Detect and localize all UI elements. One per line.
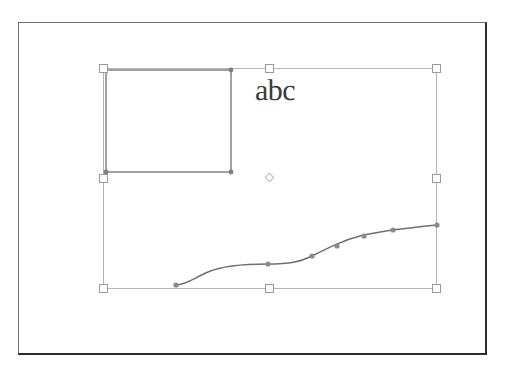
handle-bottom-right[interactable] [432, 284, 441, 293]
rectangle-node-markers [104, 68, 234, 175]
handle-middle-right[interactable] [432, 174, 441, 183]
handle-middle-left[interactable] [99, 174, 108, 183]
curve-node-5[interactable] [390, 227, 395, 232]
drawing-canvas[interactable] [0, 0, 505, 384]
curve-node-0[interactable] [173, 282, 178, 287]
handle-top-center[interactable] [265, 64, 274, 73]
handle-top-left[interactable] [99, 64, 108, 73]
curve-node-1[interactable] [265, 261, 270, 266]
rectangle-node-0[interactable] [229, 68, 234, 73]
curve-path[interactable] [176, 225, 437, 285]
handle-bottom-center[interactable] [265, 284, 274, 293]
curve-node-markers [173, 222, 439, 287]
curve-node-4[interactable] [361, 233, 366, 238]
curve-node-6[interactable] [434, 222, 439, 227]
handle-top-right[interactable] [432, 64, 441, 73]
canvas-vector-layer [0, 0, 505, 384]
rectangle-node-1[interactable] [229, 170, 234, 175]
curve-node-2[interactable] [309, 253, 314, 258]
screenshot-root: abc [0, 0, 505, 384]
rectangle-shape[interactable] [106, 70, 231, 172]
text-object[interactable]: abc [255, 76, 295, 106]
curve-node-3[interactable] [334, 243, 339, 248]
handle-bottom-left[interactable] [99, 284, 108, 293]
